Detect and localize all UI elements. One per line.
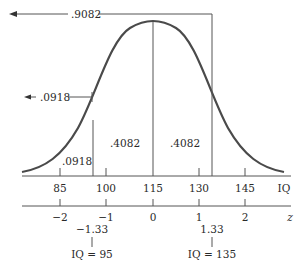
left-marker-z: −1.33: [76, 223, 108, 235]
iq-axis-label: IQ: [278, 182, 291, 194]
z-tick-label: 0: [150, 211, 157, 223]
iq-tick-label: 85: [53, 182, 66, 194]
left-tail-annotation: .0918: [24, 91, 92, 103]
left-marker-iq: IQ = 95: [71, 248, 113, 260]
iq-tick-label: 100: [96, 182, 116, 194]
iq-tick-label: 145: [235, 182, 255, 194]
left-arrow-icon: [24, 95, 31, 100]
left-tail-region-label: .0918: [62, 155, 92, 167]
z-tick-label: 1: [196, 211, 203, 223]
z-axis-label: z: [286, 211, 293, 223]
top-area-annotation: .9082: [9, 8, 212, 20]
iq-tick-label: 115: [143, 182, 163, 194]
z-tick-label: 2: [242, 211, 249, 223]
left-tail-annotation-value: .0918: [40, 91, 70, 103]
top-area-value: .9082: [71, 8, 101, 20]
iq-tick-label: 130: [189, 182, 209, 194]
right-marker-callout: 1.33 IQ = 135: [188, 223, 236, 260]
normal-distribution-diagram: .9082 .0918 .0918 .4082 .4082 85 100 115…: [0, 0, 303, 270]
z-tick-label: −2: [52, 211, 67, 223]
right-marker-iq: IQ = 135: [188, 248, 236, 260]
z-axis: −2 −1 0 1 2 z: [22, 199, 293, 223]
left-arrow-icon: [9, 11, 17, 17]
right-marker-z: 1.33: [200, 223, 223, 235]
z-tick-label: −1: [98, 211, 113, 223]
left-marker-callout: −1.33 IQ = 95: [71, 223, 113, 260]
left-center-region-label: .4082: [110, 137, 140, 149]
right-center-region-label: .4082: [170, 137, 200, 149]
iq-axis: 85 100 115 130 145 IQ: [22, 168, 291, 194]
